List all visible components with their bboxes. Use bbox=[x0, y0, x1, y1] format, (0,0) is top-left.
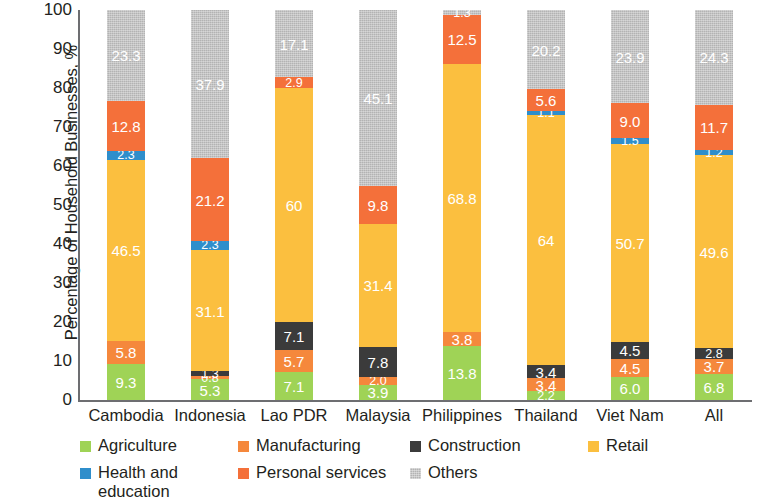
bar-segment-value: 9.0 bbox=[611, 113, 649, 128]
bar-segment: 4.5 bbox=[611, 342, 649, 360]
bar-segment: 45.1 bbox=[359, 10, 397, 186]
bar-segment: 11.7 bbox=[695, 105, 733, 151]
bar-segment: 5.6 bbox=[527, 89, 565, 111]
plot-area: 9.35.846.52.312.823.35.30.81.331.12.321.… bbox=[80, 10, 752, 400]
legend-swatch-icon bbox=[80, 441, 91, 452]
bar-segment: 37.9 bbox=[191, 10, 229, 158]
legend-item-manufacturing[interactable]: Manufacturing bbox=[238, 436, 361, 455]
legend-label: Manufacturing bbox=[256, 436, 361, 455]
legend-item-personal-services[interactable]: Personal services bbox=[238, 463, 386, 482]
bar-segment-value: 17.1 bbox=[275, 36, 313, 51]
legend-swatch-icon bbox=[80, 468, 91, 479]
legend-item-others[interactable]: Others bbox=[410, 463, 478, 482]
legend-label: Agriculture bbox=[98, 436, 177, 455]
bar-segment: 3.9 bbox=[359, 385, 397, 400]
bar-segment: 64 bbox=[527, 115, 565, 365]
legend-item-health-and-education[interactable]: Health and education bbox=[80, 463, 230, 501]
bar-segment-value: 46.5 bbox=[107, 243, 145, 258]
bar-segment: 9.8 bbox=[359, 186, 397, 224]
bar-segment-value: 49.6 bbox=[695, 244, 733, 259]
bar-segment-value: 12.8 bbox=[107, 118, 145, 133]
bar-segment-value: 6.8 bbox=[695, 379, 733, 394]
bar-segment: 5.3 bbox=[191, 379, 229, 400]
bar-philippines: 13.83.868.812.51.3 bbox=[443, 10, 481, 400]
bar-segment: 2.3 bbox=[107, 151, 145, 160]
bar-segment-value: 45.1 bbox=[359, 90, 397, 105]
bar-segment-value: 9.8 bbox=[359, 198, 397, 213]
bar-segment-value: 13.8 bbox=[443, 366, 481, 381]
y-tick-label: 80 bbox=[10, 78, 72, 98]
bar-segment-value: 20.2 bbox=[527, 42, 565, 57]
bar-segment: 31.4 bbox=[359, 224, 397, 346]
bar-segment-value: 21.2 bbox=[191, 192, 229, 207]
x-axis-line bbox=[78, 400, 752, 402]
y-tick-label: 40 bbox=[10, 234, 72, 254]
bar-segment-value: 2.8 bbox=[695, 347, 733, 360]
legend-swatch-icon bbox=[238, 441, 249, 452]
bar-segment: 6.8 bbox=[695, 374, 733, 401]
legend-item-construction[interactable]: Construction bbox=[410, 436, 521, 455]
bar-segment: 3.4 bbox=[527, 365, 565, 378]
y-tick-label: 20 bbox=[10, 312, 72, 332]
bar-segment: 5.7 bbox=[275, 350, 313, 372]
bar-segment-value: 9.3 bbox=[107, 374, 145, 389]
x-tick-label: All bbox=[654, 406, 761, 425]
bar-segment: 0.8 bbox=[191, 376, 229, 379]
bar-segment-value: 3.4 bbox=[527, 377, 565, 392]
bar-segment-value: 24.3 bbox=[695, 50, 733, 65]
legend-swatch-icon bbox=[410, 468, 421, 479]
legend-item-retail[interactable]: Retail bbox=[588, 436, 648, 455]
bar-malaysia: 3.92.07.831.49.845.1 bbox=[359, 10, 397, 400]
bar-segment: 12.8 bbox=[107, 101, 145, 151]
bar-segment-value: 68.8 bbox=[443, 190, 481, 205]
bar-segment-value: 7.1 bbox=[275, 379, 313, 394]
bar-segment-value: 3.4 bbox=[527, 364, 565, 379]
bar-segment-value: 2.9 bbox=[275, 77, 313, 90]
y-tick-label: 70 bbox=[10, 117, 72, 137]
y-tick-label: 10 bbox=[10, 351, 72, 371]
bar-segment: 3.4 bbox=[527, 378, 565, 391]
legend-label: Health and education bbox=[98, 463, 230, 501]
bar-segment: 1.1 bbox=[527, 111, 565, 115]
bar-segment-value: 6.0 bbox=[611, 381, 649, 396]
bar-segment: 68.8 bbox=[443, 64, 481, 332]
chart-legend: AgricultureManufacturingConstructionReta… bbox=[80, 436, 761, 504]
bar-segment: 6.0 bbox=[611, 377, 649, 400]
bar-segment-value: 7.8 bbox=[359, 354, 397, 369]
legend-label: Personal services bbox=[256, 463, 386, 482]
legend-label: Retail bbox=[606, 436, 648, 455]
bar-segment: 2.3 bbox=[191, 241, 229, 250]
bar-all: 6.83.72.849.61.211.724.3 bbox=[695, 10, 733, 400]
bar-lao-pdr: 7.15.77.1602.917.1 bbox=[275, 10, 313, 400]
y-tick-label: 100 bbox=[10, 0, 72, 20]
bar-segment: 31.1 bbox=[191, 250, 229, 371]
bar-segment: 1.2 bbox=[695, 150, 733, 155]
legend-swatch-icon bbox=[588, 441, 599, 452]
bar-segment-value: 2.3 bbox=[191, 239, 229, 252]
bar-segment: 1.5 bbox=[611, 138, 649, 144]
bar-segment: 9.0 bbox=[611, 103, 649, 138]
bar-segment-value: 3.8 bbox=[443, 331, 481, 346]
bar-segment: 9.3 bbox=[107, 364, 145, 400]
y-tick-label: 30 bbox=[10, 273, 72, 293]
bar-segment-value: 50.7 bbox=[611, 235, 649, 250]
bar-viet-nam: 6.04.54.550.71.59.023.9 bbox=[611, 10, 649, 400]
bar-segment-value: 12.5 bbox=[443, 32, 481, 47]
bar-segment: 23.3 bbox=[107, 10, 145, 101]
bar-segment-value: 23.9 bbox=[611, 49, 649, 64]
y-tick-label: 90 bbox=[10, 39, 72, 59]
bar-thailand: 2.23.43.4641.15.620.2 bbox=[527, 10, 565, 400]
bar-segment: 23.9 bbox=[611, 10, 649, 103]
legend-label: Construction bbox=[428, 436, 521, 455]
bar-segment: 2.8 bbox=[695, 348, 733, 359]
bar-segment-value: 64 bbox=[527, 233, 565, 248]
bar-cambodia: 9.35.846.52.312.823.3 bbox=[107, 10, 145, 400]
bar-segment: 24.3 bbox=[695, 10, 733, 105]
bar-segment: 2.0 bbox=[359, 377, 397, 385]
legend-item-agriculture[interactable]: Agriculture bbox=[80, 436, 177, 455]
stacked-bar-chart: Percentage of Household Businesses, % 01… bbox=[0, 0, 761, 504]
bar-segment-value: 31.4 bbox=[359, 278, 397, 293]
bar-segment-value: 5.6 bbox=[527, 93, 565, 108]
bar-segment: 7.1 bbox=[275, 372, 313, 400]
bar-segment: 3.7 bbox=[695, 359, 733, 373]
